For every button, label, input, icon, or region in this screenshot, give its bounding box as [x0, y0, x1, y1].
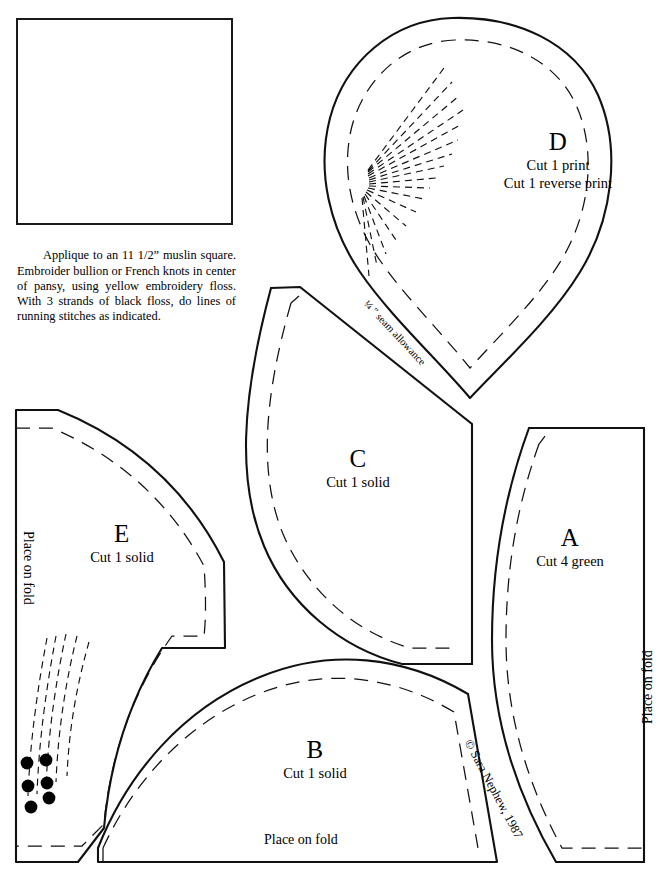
french-knot-dot — [21, 757, 34, 770]
piece-e-label: E Cut 1 solid — [42, 520, 202, 566]
piece-d-label: D Cut 1 print Cut 1 reverse print — [478, 128, 638, 192]
pattern-sheet: A B C D D E — [0, 0, 660, 876]
piece-b-label: B Cut 1 solid — [235, 736, 395, 782]
piece-a-label: A Cut 4 green — [500, 524, 640, 570]
piece-a-place-on-fold: Place on fold — [640, 650, 656, 724]
instructions-text: Applique to an 11 1/2” muslin square. Em… — [17, 248, 236, 324]
piece-d-cut-2: Cut 1 reverse print — [478, 174, 638, 192]
piece-c-label: C Cut 1 solid — [278, 445, 438, 491]
piece-b-letter: B — [235, 736, 395, 764]
pattern-piece-a — [492, 428, 644, 862]
piece-a-cut-1: Cut 4 green — [500, 552, 640, 570]
french-knot-dot — [25, 801, 38, 814]
piece-b-place-on-fold: Place on fold — [264, 832, 338, 848]
piece-a-letter: A — [500, 524, 640, 552]
diagram-frame — [16, 18, 233, 225]
piece-b-cut-1: Cut 1 solid — [235, 764, 395, 782]
french-knot-dot — [41, 777, 54, 790]
french-knot-dot — [22, 780, 35, 793]
piece-e-letter: E — [42, 520, 202, 548]
french-knot-dot — [43, 792, 56, 805]
piece-d-cut-1: Cut 1 print — [478, 156, 638, 174]
piece-e-cut-1: Cut 1 solid — [42, 548, 202, 566]
piece-d-letter: D — [478, 128, 638, 156]
piece-e-place-on-fold: Place on fold — [20, 531, 36, 605]
piece-c-letter: C — [278, 445, 438, 473]
piece-c-cut-1: Cut 1 solid — [278, 473, 438, 491]
piece-a-cut-line — [492, 428, 644, 862]
french-knot-dot — [40, 754, 53, 767]
